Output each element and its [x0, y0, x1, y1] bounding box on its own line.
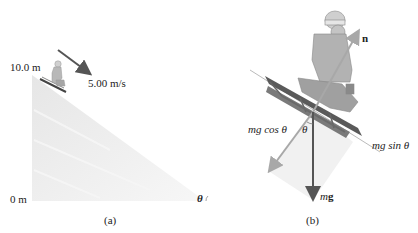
- height-bottom-label: 0 m: [10, 194, 27, 205]
- panel-b-free-body-diagram: n mg cos θ θ mg sin θ mg (b): [210, 0, 418, 233]
- angle-arc-icon: [206, 196, 208, 201]
- angle-label: θ: [197, 193, 203, 204]
- snow-slope: [32, 75, 205, 201]
- free-body-graphic: [210, 0, 418, 233]
- caption-b: (b): [306, 215, 319, 226]
- angle-label: θ: [302, 124, 307, 135]
- height-top-label: 10.0 m: [10, 62, 41, 73]
- weight-label: mg: [320, 191, 333, 202]
- velocity-arrow-icon: [58, 50, 89, 73]
- slope-graphic: [0, 0, 210, 233]
- perp-component-label: mg cos θ: [248, 124, 287, 135]
- normal-force-label: n: [362, 33, 368, 44]
- weight-label-g: g: [328, 190, 334, 202]
- child-on-sled-icon: [52, 61, 65, 86]
- parallel-component-label: mg sin θ: [372, 140, 409, 151]
- weight-label-m: m: [320, 190, 328, 202]
- panel-a-slope-diagram: 10.0 m 5.00 m/s 0 m θ (a): [0, 0, 210, 233]
- child-on-sled-icon: [298, 11, 358, 112]
- velocity-label: 5.00 m/s: [88, 78, 126, 89]
- caption-a: (a): [104, 215, 116, 226]
